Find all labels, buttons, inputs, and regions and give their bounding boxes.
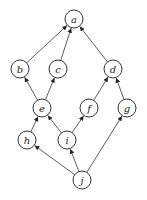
edge-j-to-g xyxy=(87,116,122,172)
node-label: d xyxy=(110,64,116,75)
node-label: i xyxy=(65,135,68,146)
edge-e-to-b xyxy=(25,77,38,100)
node-label: c xyxy=(55,64,61,75)
node-label: g xyxy=(124,103,130,114)
edge-f-to-d xyxy=(94,77,108,100)
node-label: a xyxy=(71,14,77,25)
node-j: j xyxy=(73,171,91,189)
edge-e-to-c xyxy=(45,78,54,100)
edge-g-to-d xyxy=(116,78,124,100)
edge-c-to-a xyxy=(61,28,71,60)
node-c: c xyxy=(49,60,67,78)
node-label: b xyxy=(17,64,23,75)
edge-i-to-f xyxy=(72,116,84,133)
edge-d-to-a xyxy=(80,26,108,61)
node-label: e xyxy=(39,103,45,114)
edge-i-to-e xyxy=(48,115,62,132)
edge-j-to-i xyxy=(70,149,79,172)
edge-j-to-h xyxy=(35,146,75,175)
node-a: a xyxy=(65,10,83,28)
node-h: h xyxy=(18,131,36,149)
node-i: i xyxy=(58,131,76,149)
node-e: e xyxy=(33,99,51,117)
edge-b-to-a xyxy=(27,25,67,62)
node-d: d xyxy=(104,60,122,78)
edge-h-to-e xyxy=(31,117,38,132)
node-label: h xyxy=(24,135,30,146)
node-f: f xyxy=(80,99,98,117)
node-g: g xyxy=(118,99,136,117)
node-b: b xyxy=(11,60,29,78)
dag-diagram: abcdefghij xyxy=(0,0,147,200)
nodes: abcdefghij xyxy=(11,10,136,189)
